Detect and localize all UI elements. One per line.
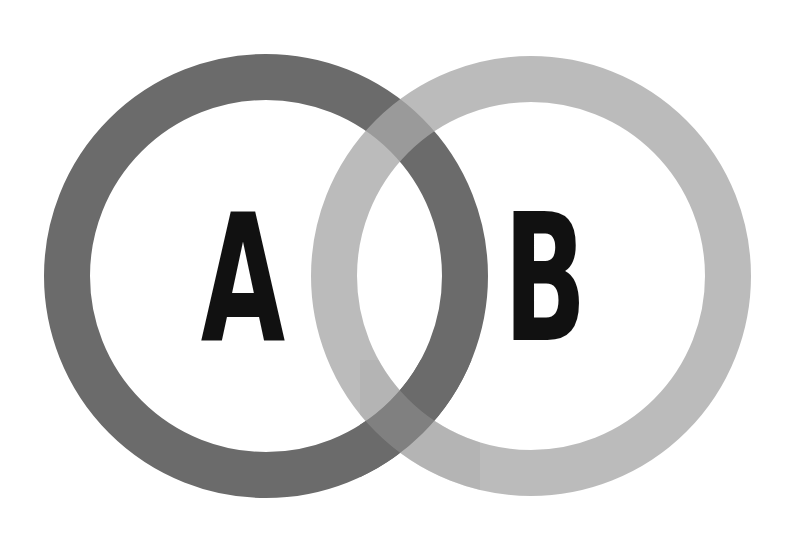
- venn-diagram: A B: [0, 0, 796, 533]
- label-a: A: [201, 177, 285, 383]
- label-b: B: [503, 177, 586, 383]
- venn-svg: A B: [0, 0, 796, 533]
